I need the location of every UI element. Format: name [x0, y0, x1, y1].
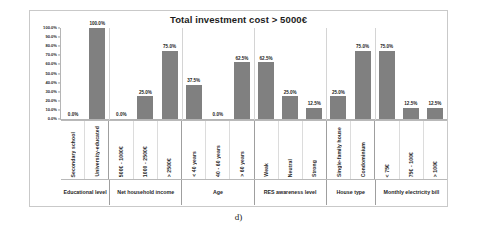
category-label: Secondary school [70, 132, 76, 177]
y-axis-tick: 60.0% [45, 62, 57, 66]
bar: 25.0% [330, 96, 346, 119]
bar: 12.5% [306, 108, 322, 119]
category-label: Weak [263, 163, 269, 177]
category-label: 1000 - 2500€ [142, 146, 148, 177]
bar: 75.0% [355, 51, 371, 119]
category-label-cell: 75€ - 100€ [400, 121, 424, 179]
figure-caption: d) [0, 212, 477, 222]
category-label: 500€ - 1000€ [118, 146, 124, 177]
bar-cell: 25.0% [326, 28, 350, 119]
bar-cell: 62.5% [230, 28, 254, 119]
bar-value-label: 75.0% [356, 45, 369, 50]
category-label: Strong [311, 160, 317, 177]
bar: 100.0% [89, 28, 105, 119]
group-label-cell: RES awareness level [255, 180, 327, 205]
group-label-cell: Monthly electricity bill [376, 180, 447, 205]
group-separator [326, 28, 327, 120]
group-separator [182, 28, 183, 120]
bar-cell: 12.5% [423, 28, 447, 119]
bar-cell: 0.0% [109, 28, 133, 119]
bar-cell: 75.0% [158, 28, 182, 119]
y-axis-tick: 10.0% [45, 108, 57, 112]
group-label: RES awareness level [264, 189, 317, 196]
category-label: > 100€ [432, 161, 438, 177]
group-label-cell: Net household income [110, 180, 182, 205]
bar: 37.5% [186, 85, 202, 119]
bar-value-label: 75.0% [163, 45, 176, 50]
y-axis: 0.0%10.0%20.0%30.0%40.0%50.0%60.0%70.0%8… [31, 28, 60, 120]
y-axis-tick: 50.0% [45, 71, 57, 75]
group-row: Educational levelNet household incomeAge… [61, 179, 447, 205]
category-label-cell: Condominium [351, 121, 375, 179]
bar-value-label: 62.5% [235, 57, 248, 62]
group-label-cell: Educational level [61, 180, 110, 205]
plot-area: 0.0%10.0%20.0%30.0%40.0%50.0%60.0%70.0%8… [31, 28, 448, 120]
category-label: 75€ - 100€ [408, 152, 414, 177]
category-label: Neutral [287, 159, 293, 177]
y-axis-tick: 70.0% [45, 53, 57, 57]
category-label-cell: 500€ - 1000€ [109, 121, 133, 179]
bar-cell: 0.0% [206, 28, 230, 119]
bar-cell: 25.0% [133, 28, 157, 119]
bar-value-label: 75.0% [380, 45, 393, 50]
bar-cell: 12.5% [399, 28, 423, 119]
category-label-cell: 1000 - 2500€ [134, 121, 158, 179]
bar: 75.0% [162, 51, 178, 119]
bar-value-label: 12.5% [308, 102, 321, 107]
bar-cell: 75.0% [351, 28, 375, 119]
bar: 25.0% [137, 96, 153, 119]
y-axis-tick: 100.0% [43, 26, 57, 30]
category-label-cell: Strong [303, 121, 327, 179]
group-label: House type [336, 189, 365, 196]
bar-cell: 25.0% [278, 28, 302, 119]
bar-cell: 37.5% [182, 28, 206, 119]
bar-value-label: 0.0% [213, 113, 223, 118]
bar-value-label: 0.0% [116, 113, 126, 118]
category-row: Secondary schoolUniversity-educated500€ … [61, 120, 447, 179]
category-label-cell: > 60 years [230, 121, 254, 179]
category-label-cell: > 100€ [424, 121, 447, 179]
category-label: > 60 years [239, 151, 245, 177]
bar: 25.0% [282, 96, 298, 119]
category-label: University-educated [94, 126, 100, 177]
group-label: Monthly electricity bill [384, 189, 440, 196]
figure-root: Total investment cost > 5000€ 0.0%10.0%2… [0, 0, 477, 241]
bar: 12.5% [403, 108, 419, 119]
bar-cell: 75.0% [375, 28, 399, 119]
group-separator [375, 28, 376, 120]
bar-value-label: 37.5% [187, 79, 200, 84]
category-label-cell: Single-family house [327, 121, 351, 179]
category-label-table: Secondary schoolUniversity-educated500€ … [31, 120, 448, 206]
group-label: Age [213, 189, 223, 196]
y-axis-tick: 90.0% [45, 35, 57, 39]
bar-value-label: 12.5% [428, 102, 441, 107]
category-label: > 2500€ [166, 158, 172, 177]
bar-value-label: 25.0% [139, 91, 152, 96]
group-label: Educational level [63, 189, 106, 196]
bar: 12.5% [427, 108, 443, 119]
category-label-cell: 40 - 60 years [206, 121, 230, 179]
category-label-cell: Weak [255, 121, 279, 179]
y-axis-tick: 40.0% [45, 81, 57, 85]
category-label-cell: < 40 years [182, 121, 206, 179]
bar-value-label: 25.0% [332, 91, 345, 96]
category-label-cell: < 75€ [375, 121, 399, 179]
group-label-cell: House type [327, 180, 376, 205]
category-label: < 40 years [191, 151, 197, 177]
group-separator [254, 28, 255, 120]
bar: 62.5% [234, 62, 250, 119]
y-axis-tick: 30.0% [45, 90, 57, 94]
bar-cell: 12.5% [302, 28, 326, 119]
group-label: Net household income [117, 189, 174, 196]
group-label-cell: Age [182, 180, 254, 205]
y-axis-tick: 20.0% [45, 99, 57, 103]
category-label: 40 - 60 years [215, 145, 221, 177]
chart-container: Total investment cost > 5000€ 0.0%10.0%2… [29, 10, 448, 207]
bar-value-label: 100.0% [89, 22, 105, 27]
bar-value-label: 25.0% [284, 91, 297, 96]
bar-value-label: 0.0% [68, 113, 78, 118]
category-label: Condominium [360, 142, 366, 177]
bar: 62.5% [258, 62, 274, 119]
category-label: Single-family house [336, 127, 342, 177]
category-label-cell: Neutral [279, 121, 303, 179]
